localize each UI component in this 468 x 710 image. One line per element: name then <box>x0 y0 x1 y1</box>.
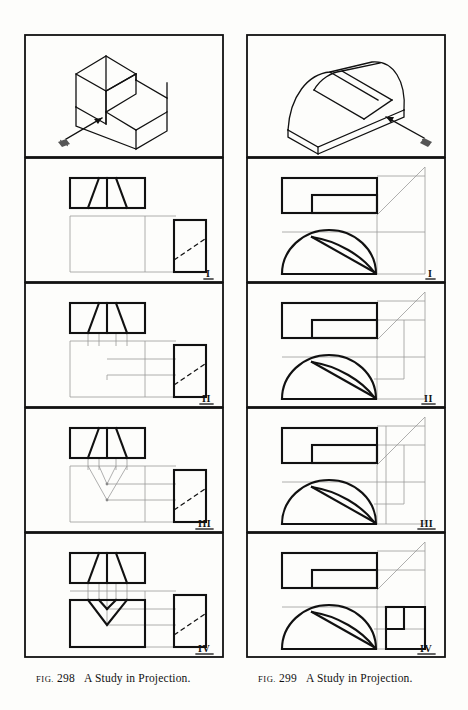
caption-text-299: A Study in Projection. <box>306 672 413 684</box>
panel-pictorial-299 <box>247 35 445 157</box>
construction-lines-II-299 <box>282 292 425 399</box>
side-view-III-298 <box>174 470 206 522</box>
figure-299-panels: I <box>246 34 446 662</box>
isometric-block-298 <box>76 56 167 149</box>
caption-number-299: 299 <box>279 672 297 684</box>
front-view-IV-298 <box>70 600 145 647</box>
construction-lines-IV-299 <box>282 542 425 649</box>
panel-pictorial-298 <box>25 35 223 157</box>
panel-IV-299: IV <box>247 533 445 657</box>
caption-figure-298: FIG. 298 A Study in Projection. <box>36 672 191 684</box>
figure-298-panels: .obj { stroke:#111; stroke-width:2.1; fi… <box>24 34 224 662</box>
top-view-II-299 <box>282 303 377 338</box>
construction-lines-II-298 <box>70 333 176 397</box>
view-direction-arrow-298 <box>58 118 102 147</box>
panel-label-IV-298: IV <box>198 643 210 654</box>
panel-label-I-298: I <box>206 268 210 279</box>
front-view-I-299 <box>282 230 376 274</box>
front-view-III-299 <box>282 480 376 524</box>
side-view-I-298 <box>174 220 206 272</box>
panel-label-II-298: II <box>202 393 211 404</box>
panel-label-III-298: III <box>198 518 211 529</box>
panel-label-II-299: II <box>424 393 433 404</box>
figure-298: .obj { stroke:#111; stroke-width:2.1; fi… <box>24 34 224 662</box>
top-view-III-298 <box>70 428 145 458</box>
panel-label-III-299: III <box>420 518 433 529</box>
panel-III-299: III <box>247 408 445 532</box>
caption-prefix-299: FIG. <box>258 674 276 684</box>
caption-figure-299: FIG. 299 A Study in Projection. <box>258 672 413 684</box>
panel-I-299: I <box>247 158 445 282</box>
construction-lines-III-299 <box>282 417 425 524</box>
top-view-II-298 <box>70 303 145 333</box>
caption-number-298: 298 <box>57 672 75 684</box>
panel-IV-298: IV <box>25 533 223 657</box>
front-view-II-299 <box>282 355 376 399</box>
panel-II-298: II <box>25 283 223 407</box>
caption-prefix-298: FIG. <box>36 674 54 684</box>
view-direction-arrow-299 <box>386 117 432 147</box>
top-view-III-299 <box>282 428 377 463</box>
top-view-IV-298 <box>70 553 145 583</box>
figure-299: I <box>246 34 446 662</box>
construction-lines-I-299 <box>282 167 425 274</box>
top-view-I-299 <box>282 178 377 213</box>
isometric-dome-299 <box>288 62 404 154</box>
panel-I-298: I <box>25 158 223 282</box>
side-view-IV-298 <box>174 595 206 647</box>
panel-III-298: III <box>25 408 223 532</box>
side-view-II-298 <box>174 345 206 397</box>
figure-page: .obj { stroke:#111; stroke-width:2.1; fi… <box>0 0 468 710</box>
top-view-I-298 <box>70 178 145 208</box>
caption-text-298: A Study in Projection. <box>84 672 191 684</box>
panel-label-I-299: I <box>428 268 432 279</box>
construction-lines-III-298 <box>70 458 176 522</box>
panel-label-IV-299: IV <box>420 643 432 654</box>
front-view-IV-299 <box>282 605 376 649</box>
panel-II-299: II <box>247 283 445 407</box>
top-view-IV-299 <box>282 553 377 588</box>
construction-lines-I-298 <box>70 216 176 272</box>
